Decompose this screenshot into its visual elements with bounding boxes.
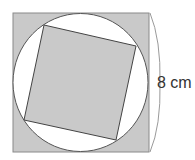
rotated-inner-square [24, 25, 136, 140]
dimension-label: 8 cm [157, 73, 192, 93]
